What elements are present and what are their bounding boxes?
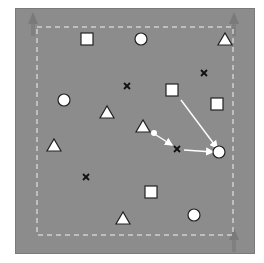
- cone-triangle-icon: [218, 33, 232, 45]
- cone-triangle-icon: [136, 120, 150, 132]
- goal-marker-icon: [229, 228, 239, 240]
- goal-post-icon: [31, 22, 35, 36]
- circle-player-icon: [135, 33, 147, 45]
- square-marker-icon: [81, 33, 93, 45]
- goal-marker-icon: [229, 12, 239, 24]
- square-marker-icon: [211, 98, 223, 110]
- drill-diagram: [0, 0, 264, 263]
- movement-arrow: [184, 150, 213, 152]
- cross-player-icon: [83, 174, 89, 180]
- cone-triangle-icon: [100, 106, 114, 118]
- circle-player-icon: [213, 146, 225, 158]
- goal-post-icon: [232, 238, 236, 252]
- ball-icon: [151, 130, 157, 136]
- square-marker-icon: [145, 186, 157, 198]
- cross-player-icon: [124, 83, 130, 89]
- cross-player-icon: [201, 70, 207, 76]
- cone-triangle-icon: [47, 139, 61, 151]
- cross-player-icon: [174, 146, 180, 152]
- circle-player-icon: [188, 209, 200, 221]
- movement-arrow: [156, 135, 172, 145]
- goal-marker-icon: [28, 12, 38, 24]
- square-marker-icon: [166, 84, 178, 96]
- circle-player-icon: [58, 94, 70, 106]
- cone-triangle-icon: [116, 212, 130, 224]
